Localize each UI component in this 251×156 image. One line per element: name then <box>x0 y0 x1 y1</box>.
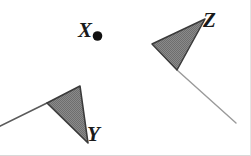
tail-z-line <box>177 70 236 123</box>
label-z: Z <box>203 10 216 31</box>
point-x-dot <box>93 31 103 41</box>
triangle-y-shape <box>47 86 88 143</box>
triangle-z-shape <box>152 19 205 70</box>
label-x: X <box>78 20 92 41</box>
tail-y-line <box>0 103 47 127</box>
label-y: Y <box>87 124 100 145</box>
figure-canvas: X Y Z <box>0 0 251 156</box>
